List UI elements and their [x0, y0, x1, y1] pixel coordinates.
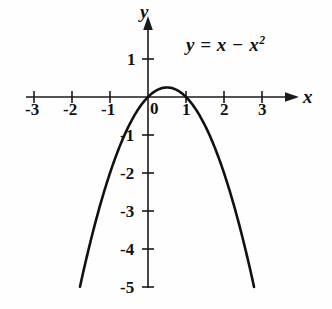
- x-tick-label--2: -2: [63, 101, 77, 118]
- y-tick-label--1: -1: [120, 127, 134, 144]
- equation-term2-exponent: 2: [259, 34, 265, 47]
- equation-term2-base: x: [249, 34, 259, 55]
- x-tick-label-1: 1: [182, 101, 191, 118]
- x-axis-label: x: [303, 87, 313, 106]
- y-axis-label: y: [140, 2, 148, 21]
- x-tick-label--1: -1: [101, 101, 115, 118]
- origin-tick-label: 0: [150, 100, 159, 117]
- equation-annotation: y = x − x2: [186, 34, 266, 56]
- plot-canvas: [0, 0, 332, 309]
- y-tick-label-1: 1: [127, 51, 136, 68]
- x-tick-label-2: 2: [220, 101, 229, 118]
- x-axis-arrowhead: [285, 92, 299, 102]
- x-tick-label--3: -3: [25, 101, 39, 118]
- equation-equals: =: [200, 34, 211, 55]
- y-tick-label--2: -2: [120, 165, 134, 182]
- equation-minus: −: [232, 34, 244, 55]
- parabola-figure: y x 0 -3 -2 -1 1 2 3 1 -1 -2 -3 -4 -5 y …: [0, 0, 332, 309]
- y-tick-label--4: -4: [120, 241, 134, 258]
- y-tick-label--3: -3: [120, 203, 134, 220]
- equation-term1: x: [217, 34, 227, 55]
- y-tick-label--5: -5: [120, 279, 134, 296]
- x-tick-label-3: 3: [258, 101, 267, 118]
- equation-lhs: y: [186, 34, 195, 55]
